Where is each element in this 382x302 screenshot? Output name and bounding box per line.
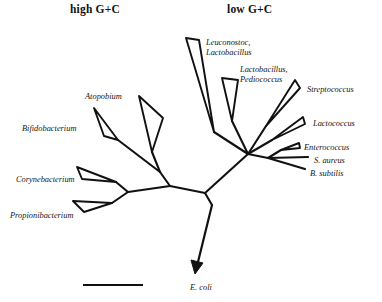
phylogenetic-tree-figure: high G+C low G+C Leuconostoc, Lactobacil… xyxy=(0,0,382,302)
taxon-label-enterococcus: Enterococcus xyxy=(304,143,349,153)
twig-s-aureus xyxy=(268,157,308,158)
taxon-label-b-subtilis: B. subtilis xyxy=(310,169,344,179)
taxon-line: Pediococcus xyxy=(240,75,288,85)
clade-low-gc xyxy=(214,121,281,158)
taxon-label-e-coli: E. coli xyxy=(190,283,212,293)
branch-corynebacterium-stem xyxy=(116,182,128,192)
branch-highgc-trunk xyxy=(170,186,205,193)
taxon-label-bifidobacterium: Bifidobacterium xyxy=(22,124,76,134)
taxon-label-corynebacterium: Corynebacterium xyxy=(16,175,75,185)
taxon-label-atopobium: Atopobium xyxy=(85,92,122,102)
branch-root-stem xyxy=(205,193,212,205)
clade-high-gc xyxy=(112,140,170,203)
e-coli-arrow-shaft xyxy=(197,205,212,266)
wedge-lactobacillus-pediococcus xyxy=(222,78,238,121)
branch-lowgc-hub-to-entero-group xyxy=(248,154,268,158)
wedge-lactococcus xyxy=(272,117,305,140)
branch-propionibacterium-stem xyxy=(112,192,128,203)
taxon-line: Lactobacillus, xyxy=(240,65,288,75)
high-gc-wedges xyxy=(73,96,163,212)
wedge-enterococcus xyxy=(281,143,300,150)
e-coli-arrow-head xyxy=(191,260,203,274)
taxon-label-leuconostoc-lactobacillus: Leuconostoc, Lactobacillus xyxy=(206,38,252,59)
wedge-bifidobacterium xyxy=(94,108,118,140)
taxon-label-lactococcus: Lactococcus xyxy=(313,119,355,129)
taxon-label-lactobacillus-pediococcus: Lactobacillus, Pediococcus xyxy=(240,65,288,86)
wedge-propionibacterium xyxy=(73,201,112,212)
branch-highgc-upper xyxy=(160,172,170,186)
taxon-line: Leuconostoc, xyxy=(206,38,252,48)
taxon-label-s-aureus: S. aureus xyxy=(314,156,345,166)
low-gc-terminal-twigs xyxy=(268,157,308,169)
group-header-high-gc: high G+C xyxy=(70,3,120,15)
taxon-label-streptococcus: Streptococcus xyxy=(307,85,354,95)
branch-lowgc-trunk xyxy=(205,154,248,193)
group-header-low-gc: low G+C xyxy=(227,3,272,15)
outgroup-arrow-group xyxy=(191,205,212,274)
tree-backbone xyxy=(170,154,248,205)
taxon-label-propionibacterium: Propionibacterium xyxy=(10,211,73,221)
twig-b-subtilis xyxy=(268,158,305,169)
branch-highgc-lower xyxy=(128,186,170,192)
wedge-atopobium xyxy=(139,96,163,152)
taxon-line: Lactobacillus xyxy=(206,48,252,58)
wedge-corynebacterium xyxy=(77,167,116,182)
wedge-streptococcus xyxy=(266,80,300,126)
